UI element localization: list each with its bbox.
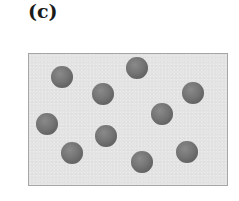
particle-sphere xyxy=(51,66,73,88)
panel-label: (c) xyxy=(28,2,58,21)
particle-sphere xyxy=(126,57,148,79)
particle-sphere xyxy=(176,141,198,163)
particle-sphere xyxy=(151,103,173,125)
particle-sphere xyxy=(61,142,83,164)
particle-sphere xyxy=(131,151,153,173)
particle-sphere xyxy=(182,82,204,104)
particle-sphere xyxy=(92,83,114,105)
particle-sphere xyxy=(36,113,58,135)
particle-sphere xyxy=(95,125,117,147)
